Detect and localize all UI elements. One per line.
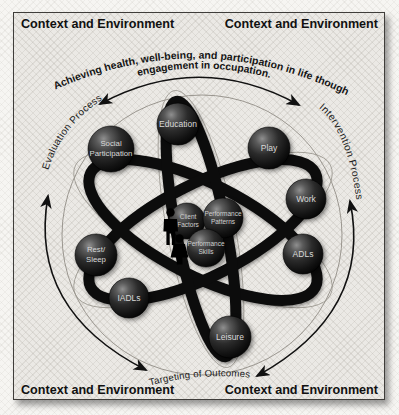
corner-label-top-left: Context and Environment xyxy=(21,17,175,31)
right-double-arrow xyxy=(257,201,354,376)
sphere-social-participation: Social Participation xyxy=(88,126,134,172)
sphere-rest-sleep: Rest/ Sleep xyxy=(75,234,117,276)
sphere-education: Education xyxy=(157,103,199,145)
social-participation-label-line2: Participation xyxy=(90,149,133,158)
rest-sleep-label-line2: Sleep xyxy=(86,255,107,264)
education-label: Education xyxy=(159,119,197,129)
adls-label: ADLs xyxy=(293,249,314,259)
occupational-therapy-framework-diagram: Achieving health, well-being, and partic… xyxy=(14,13,383,398)
client-factors-label-line2: Factors xyxy=(177,221,199,228)
intervention-process-label: Intervention Process xyxy=(317,101,365,200)
page-background: Achieving health, well-being, and partic… xyxy=(0,0,399,415)
social-participation-label-line1: Social xyxy=(100,139,122,148)
sphere-work: Work xyxy=(286,179,326,219)
performance-patterns-label-line2: Patterns xyxy=(211,218,236,225)
client-factors-label-line1: Client xyxy=(180,213,197,220)
performance-skills-label-line2: Skills xyxy=(198,248,214,255)
performance-patterns-label-line1: Performance xyxy=(204,210,242,217)
top-double-arrow xyxy=(100,77,299,105)
corner-label-bottom-right: Context and Environment xyxy=(225,383,379,397)
diagram-panel: Achieving health, well-being, and partic… xyxy=(13,12,385,400)
sphere-leisure: Leisure xyxy=(209,316,251,358)
iadls-label: IADLs xyxy=(117,293,140,303)
corner-label-top-right: Context and Environment xyxy=(225,17,379,31)
mission-arc-line1: Achieving health, well-being, and partic… xyxy=(52,49,351,97)
rest-sleep-label-line1: Rest/ xyxy=(87,245,106,254)
sphere-iadls: IADLs xyxy=(109,278,149,318)
play-label: Play xyxy=(261,143,278,153)
sphere-play: Play xyxy=(248,127,290,169)
leisure-label: Leisure xyxy=(216,332,244,342)
work-label: Work xyxy=(296,194,316,204)
sphere-adls: ADLs xyxy=(283,234,323,274)
corner-label-bottom-left: Context and Environment xyxy=(21,383,175,397)
performance-skills-label-line1: Performance xyxy=(187,240,225,247)
